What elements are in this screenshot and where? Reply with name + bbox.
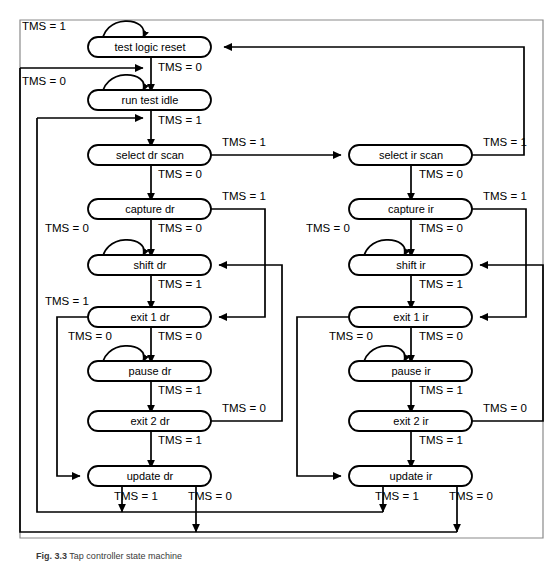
tms-label-capdr-to-shiftdr: TMS = 0 [158, 222, 202, 234]
state-test-logic-reset[interactable]: test logic reset [88, 37, 211, 57]
state-label: test logic reset [115, 41, 186, 53]
tms-label-reset-self: TMS = 1 [22, 20, 66, 32]
tms-label-exit1dr-to-updatedr: TMS = 1 [45, 295, 89, 307]
tms-label-updatedr-tms0: TMS = 0 [188, 490, 232, 502]
tms-label-updatedr-tms1: TMS = 1 [114, 490, 158, 502]
tms-label-seldr-to-capdr: TMS = 0 [158, 168, 202, 180]
edge-exit2dr-to-shiftdr [211, 265, 282, 421]
tms-label-shiftdr-to-exit1dr: TMS = 1 [158, 278, 202, 290]
state-label: update ir [390, 470, 433, 482]
tms-label-pauseir-self: TMS = 0 [329, 330, 373, 342]
state-label: pause ir [391, 365, 430, 377]
state-select-dr-scan[interactable]: select dr scan [88, 145, 211, 165]
edge-capir-to-exit1ir [472, 209, 526, 317]
tms-label-exit2dr-to-updatedr: TMS = 1 [158, 434, 202, 446]
state-label: select ir scan [379, 149, 443, 161]
state-exit-1-ir[interactable]: exit 1 ir [349, 307, 472, 327]
state-update-ir[interactable]: update ir [349, 466, 472, 486]
left-column-states: test logic reset run test idle select dr… [88, 37, 211, 486]
state-label: exit 2 dr [130, 415, 169, 427]
state-exit-2-ir[interactable]: exit 2 ir [349, 411, 472, 431]
state-label: exit 2 ir [393, 415, 429, 427]
tms-label-capir-to-exit1ir: TMS = 1 [483, 190, 527, 202]
state-capture-ir[interactable]: capture ir [349, 199, 472, 219]
edge-exit2ir-to-shiftir [472, 265, 543, 421]
state-label: capture ir [388, 203, 434, 215]
tms-label-shiftdr-self: TMS = 0 [45, 222, 89, 234]
tms-label-selir-to-capir: TMS = 0 [419, 168, 463, 180]
state-pause-ir[interactable]: pause ir [349, 361, 472, 381]
state-shift-dr[interactable]: shift dr [88, 255, 211, 275]
tms-label-pausedr-to-exit2dr: TMS = 1 [158, 384, 202, 396]
state-label: capture dr [125, 203, 175, 215]
tms-label-idle-self: TMS = 0 [22, 75, 66, 87]
edge-selir-to-reset [224, 47, 524, 155]
state-shift-ir[interactable]: shift ir [349, 255, 472, 275]
tms-label-exit2ir-to-shiftir: TMS = 0 [483, 402, 527, 414]
tms-label-shiftir-self: TMS = 0 [306, 222, 350, 234]
figure-caption: Fig. 3.3 Tap controller state machine [36, 551, 182, 565]
state-label: exit 1 ir [393, 311, 429, 323]
state-update-dr[interactable]: update dr [88, 466, 211, 486]
state-label: shift dr [133, 259, 166, 271]
tms-label-reset-to-idle: TMS = 0 [158, 61, 202, 73]
tms-label-capir-to-shiftir: TMS = 0 [419, 222, 463, 234]
tms-label-updateir-tms1: TMS = 1 [375, 490, 419, 502]
state-label: pause dr [129, 365, 172, 377]
tms-label-seldr-to-selir: TMS = 1 [222, 136, 266, 148]
tms-label-pausedr-self: TMS = 0 [68, 330, 112, 342]
figure-caption-label: Fig. 3.3 [36, 551, 67, 561]
tms-label-exit1ir-to-pauseir: TMS = 0 [419, 330, 463, 342]
state-label: update dr [127, 470, 174, 482]
tms-label-exit2dr-to-shiftdr: TMS = 0 [222, 402, 266, 414]
tms-label-shiftir-to-exit1ir: TMS = 1 [419, 278, 463, 290]
state-pause-dr[interactable]: pause dr [88, 361, 211, 381]
state-label: shift ir [396, 259, 426, 271]
tms-label-exit1dr-to-pausedr: TMS = 0 [158, 330, 202, 342]
state-label: run test idle [122, 94, 179, 106]
tms-label-capdr-to-exit1dr: TMS = 1 [222, 190, 266, 202]
tms-label-selir-to-reset: TMS = 1 [483, 136, 527, 148]
state-run-test-idle[interactable]: run test idle [88, 90, 211, 110]
state-capture-dr[interactable]: capture dr [88, 199, 211, 219]
state-label: select dr scan [116, 149, 184, 161]
state-select-ir-scan[interactable]: select ir scan [349, 145, 472, 165]
figure-caption-text: Tap controller state machine [69, 551, 182, 561]
state-label: exit 1 dr [130, 311, 169, 323]
state-exit-1-dr[interactable]: exit 1 dr [88, 307, 211, 327]
state-machine-diagram: test logic reset run test idle select dr… [0, 0, 552, 565]
tms-label-exit2ir-to-updateir: TMS = 1 [419, 434, 463, 446]
state-exit-2-dr[interactable]: exit 2 dr [88, 411, 211, 431]
tms-label-pauseir-to-exit2ir: TMS = 1 [419, 384, 463, 396]
tms-label-idle-to-seldr: TMS = 1 [158, 114, 202, 126]
tms-label-updateir-tms0: TMS = 0 [449, 490, 493, 502]
figure-canvas: test logic reset run test idle select dr… [0, 0, 552, 565]
edge-capdr-to-exit1dr [211, 209, 265, 317]
